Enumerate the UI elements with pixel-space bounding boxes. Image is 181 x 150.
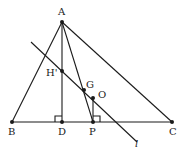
point-a <box>60 20 64 24</box>
point-c <box>170 120 174 124</box>
label-o: O <box>98 89 106 100</box>
point-o <box>91 96 95 100</box>
label-g: G <box>86 79 94 90</box>
geometry-diagram: A B C D P H' G O l <box>0 0 181 150</box>
median-ap <box>62 22 93 122</box>
label-b: B <box>8 126 15 137</box>
label-a: A <box>57 6 66 17</box>
side-ac <box>62 22 172 122</box>
point-p <box>91 120 95 124</box>
label-p: P <box>89 126 96 137</box>
point-h-prime <box>60 69 64 73</box>
label-line-l: l <box>135 138 138 149</box>
point-b <box>10 120 14 124</box>
point-d <box>60 120 64 124</box>
label-d: D <box>58 126 66 137</box>
label-h-prime: H' <box>46 67 57 78</box>
label-c: C <box>169 126 177 137</box>
